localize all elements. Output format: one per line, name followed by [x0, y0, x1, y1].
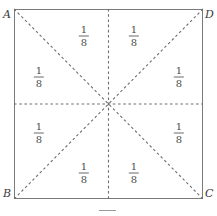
fraction-numerator: 1	[129, 25, 139, 37]
fraction-denominator: 8	[34, 134, 44, 145]
fraction-denominator: 8	[174, 134, 184, 145]
fraction-denominator: 8	[79, 37, 89, 48]
dashed-lines-group	[0, 0, 217, 216]
sector-label-top-right: 1 8	[129, 25, 139, 48]
fraction-numerator: 1	[34, 122, 44, 134]
sector-label-left-upper: 1 8	[34, 66, 44, 89]
sector-label-bottom-right: 1 8	[129, 162, 139, 185]
fraction-denominator: 8	[129, 174, 139, 185]
fraction-numerator: 1	[174, 122, 184, 134]
sector-label-bottom-left: 1 8	[79, 162, 89, 185]
fraction-numerator: 1	[174, 66, 184, 78]
fraction-denominator: 8	[79, 174, 89, 185]
fraction-numerator: 1	[129, 162, 139, 174]
vertex-label-c: C	[205, 188, 213, 199]
geometry-figure: A D B C 1 8 1 8 1 8 1 8 1 8 1 8 1 8 1 8	[0, 0, 217, 216]
sector-label-top-left: 1 8	[79, 25, 89, 48]
fraction-denominator: 8	[129, 37, 139, 48]
sector-label-right-lower: 1 8	[174, 122, 184, 145]
vertex-label-d: D	[205, 9, 214, 20]
clipped-edge-artifact	[99, 210, 116, 211]
sector-label-right-upper: 1 8	[174, 66, 184, 89]
fraction-numerator: 1	[79, 25, 89, 37]
fraction-denominator: 8	[174, 78, 184, 89]
fraction-numerator: 1	[79, 162, 89, 174]
fraction-numerator: 1	[34, 66, 44, 78]
vertex-label-b: B	[3, 188, 11, 199]
sector-label-left-lower: 1 8	[34, 122, 44, 145]
fraction-denominator: 8	[34, 78, 44, 89]
vertex-label-a: A	[3, 9, 11, 20]
